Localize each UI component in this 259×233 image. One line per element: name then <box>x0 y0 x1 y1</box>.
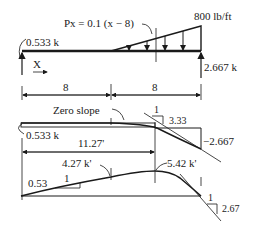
load-diagram: Px = 0.1 (x − 8) 800 lb/ft 0.533 k 2.667… <box>19 10 237 78</box>
moment-diagram: 0.53 1 4.27 k' 5.42 k' 1 2.67 <box>21 157 240 221</box>
zero-slope-leader <box>112 109 124 120</box>
shear-start-label: 0.533 k <box>26 129 60 141</box>
moment-left-slope-run: 1 <box>64 172 70 184</box>
span-dimensions: 8 8 <box>22 81 201 100</box>
load-formula: Px = 0.1 (x − 8) <box>64 17 134 30</box>
shear-end-label: −2.667 <box>203 135 234 147</box>
shear-diagram: 1 3.33 Zero slope 0.533 k −2.667 11.27' <box>18 104 234 200</box>
dimension-left: 8 <box>63 81 69 93</box>
moment-right-tangent <box>180 174 221 221</box>
left-reaction-leader <box>19 39 26 58</box>
moment-right-slope-run: 1 <box>208 192 213 203</box>
moment-left-slope-rise: 0.53 <box>28 177 48 189</box>
max-moment-leader <box>156 163 167 170</box>
x-axis-label: X <box>33 58 41 70</box>
right-reaction-label: 2.667 k <box>204 61 238 73</box>
zero-shear-location-label: 11.27' <box>78 137 104 149</box>
left-reaction-label: 0.533 k <box>26 36 60 48</box>
max-moment-label: 5.42 k' <box>167 157 197 169</box>
shear-slope-run: 1 <box>154 104 159 115</box>
max-intensity-label: 800 lb/ft <box>194 10 232 22</box>
moment-right-slope-triangle <box>207 204 217 214</box>
formula-leader <box>142 24 152 34</box>
midspan-moment-label: 4.27 k' <box>62 157 92 169</box>
zero-slope-label: Zero slope <box>53 104 100 116</box>
dimension-right: 8 <box>152 81 158 93</box>
shear-slope-rise: 3.33 <box>169 115 187 126</box>
midspan-moment-leader <box>100 165 110 176</box>
moment-right-slope-rise: 2.67 <box>222 203 240 214</box>
beam-diagram: Px = 0.1 (x − 8) 800 lb/ft 0.533 k 2.667… <box>0 0 259 233</box>
